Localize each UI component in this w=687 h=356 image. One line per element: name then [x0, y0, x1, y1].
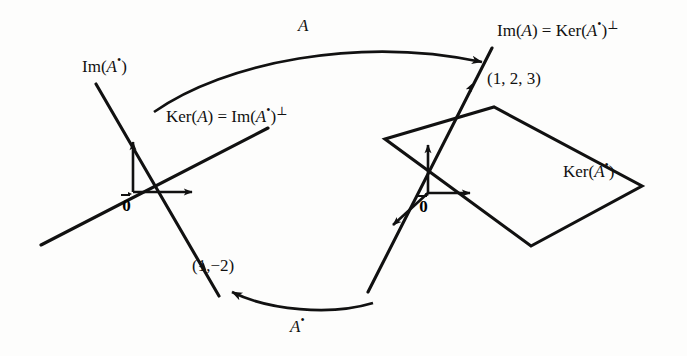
map-a-star-operator: A: [290, 317, 300, 336]
im-a-star-operator: A: [107, 57, 117, 76]
vector-arrow-icon-2: [418, 193, 429, 198]
ker-a-prefix: Ker(: [166, 107, 197, 126]
label-map-a: A: [298, 17, 308, 34]
vector-arrow-icon: [121, 192, 132, 197]
adjoint-dot-icon: •: [117, 53, 121, 67]
adjoint-dot-icon-2: •: [266, 103, 270, 117]
adjoint-dot-icon-5: •: [300, 313, 304, 327]
im-a-star-prefix-2: Im(: [231, 107, 256, 126]
label-im-a-star: Im(A•): [82, 58, 127, 75]
equals-sign-2: =: [538, 21, 556, 40]
origin-zero-left: 0: [121, 196, 132, 216]
origin-marker-left: 0: [121, 192, 132, 216]
im-a-star-suffix: ): [121, 57, 127, 76]
im-a-operator: A: [522, 21, 532, 40]
forward-map-arrow: [154, 52, 482, 112]
adjoint-dot-icon-4: •: [605, 158, 609, 172]
adjoint-dot-icon-3: •: [597, 17, 601, 31]
ker-a-star-prefix-2: Ker(: [563, 162, 594, 181]
adjoint-map-arrow: [232, 292, 373, 310]
im-a-star-prefix: Im(: [82, 57, 107, 76]
im-a-star-operator-2: A: [256, 107, 266, 126]
ker-a-line: [41, 128, 268, 245]
diagram-canvas: Im(A•) Ker(A) = Im(A•)⊥ Im(A) = Ker(A•)⊥…: [0, 0, 687, 356]
label-im-a-equals-ker-a-star-perp: Im(A) = Ker(A•)⊥: [497, 22, 618, 39]
ker-a-star-prefix: Ker(: [556, 21, 587, 40]
label-ker-a-star: Ker(A•): [563, 163, 614, 180]
origin-marker-right: 0: [418, 193, 429, 217]
perp-icon: ⊥: [276, 104, 287, 118]
ker-a-operator: A: [197, 107, 207, 126]
perp-icon-2: ⊥: [607, 18, 618, 32]
label-point-1-minus-2: (1,−2): [192, 257, 234, 274]
im-a-prefix: Im(: [497, 21, 522, 40]
label-point-1-2-3: (1, 2, 3): [487, 70, 541, 87]
label-ker-a-equals-im-a-star-perp: Ker(A) = Im(A•)⊥: [166, 108, 287, 125]
ker-a-star-suffix-2: ): [609, 162, 615, 181]
im-a-line: [368, 48, 492, 292]
origin-zero-right: 0: [418, 197, 429, 217]
label-map-a-star: A•: [290, 318, 305, 335]
ker-a-star-operator: A: [587, 21, 597, 40]
equals-sign: =: [213, 107, 231, 126]
ker-a-star-operator-2: A: [594, 162, 604, 181]
